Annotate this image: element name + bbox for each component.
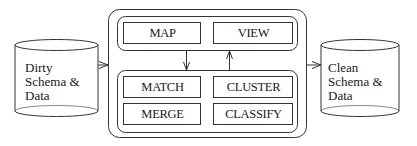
merge-label: MERGE <box>124 107 201 122</box>
cluster-label: CLUSTER <box>214 80 293 95</box>
target-label: Clean Schema & Data <box>328 61 383 103</box>
view-label: VIEW <box>214 26 293 41</box>
source-label-line-1: Dirty <box>25 61 80 75</box>
source-label-line-2: Schema & <box>25 75 80 89</box>
source-label-line-3: Data <box>25 89 80 103</box>
classify-label: CLASSIFY <box>214 107 293 122</box>
target-label-line-3: Data <box>328 89 383 103</box>
input-arrow-icon <box>98 62 108 69</box>
target-label-line-1: Clean <box>328 61 383 75</box>
map-label: MAP <box>124 26 201 41</box>
match-label: MATCH <box>124 80 201 95</box>
target-label-line-2: Schema & <box>328 75 383 89</box>
output-arrow-icon <box>307 62 321 69</box>
down-arrow-icon <box>184 51 190 71</box>
source-label: Dirty Schema & Data <box>25 61 80 103</box>
up-arrow-icon <box>227 51 233 71</box>
